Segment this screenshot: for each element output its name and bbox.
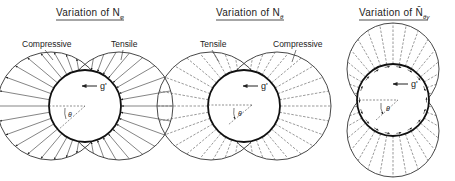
panel-n-theta: Variation of Nθ Tensile Compressive g' θ [157, 7, 331, 160]
panel-n-phi: Variation of Nφ Compressive Tensile g' θ [0, 7, 173, 160]
gravity-label: g' [411, 79, 418, 89]
title-text: Variation of Nφ [56, 7, 124, 20]
panel-title: Variation of N̄θγ [359, 6, 431, 20]
sphere-circle [208, 70, 280, 142]
svg-text:Variation of N̄θγ: Variation of N̄θγ [359, 6, 431, 20]
label-compressive: Compressive [273, 39, 323, 49]
panel-n-bar-theta-gamma: Variation of N̄θγ g' θ [347, 6, 439, 177]
gravity-label: g' [100, 81, 107, 91]
label-tensile: Tensile [111, 39, 138, 49]
label-compressive: Compressive [22, 39, 72, 49]
panel-title: Variation of Nφ [56, 7, 124, 20]
label-tensile: Tensile [200, 39, 227, 49]
angle-theta-label: θ [386, 105, 390, 112]
svg-text:Variation of Nθ: Variation of Nθ [216, 7, 284, 20]
gravity-label: g' [261, 81, 268, 91]
panel-title: Variation of Nθ [216, 7, 284, 20]
angle-theta-label: θ [68, 111, 72, 118]
diagram-canvas: Variation of Nφ Compressive Tensile g' θ… [0, 0, 455, 181]
angle-theta-label: θ [238, 110, 242, 117]
